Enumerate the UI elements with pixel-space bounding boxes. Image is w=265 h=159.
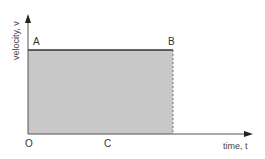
y-axis-arrow-icon bbox=[25, 14, 31, 23]
point-label-o: O bbox=[25, 138, 33, 149]
point-label-c: C bbox=[104, 138, 111, 149]
y-axis-label: velocity, v bbox=[11, 21, 21, 60]
velocity-time-diagram: velocity, v time, t A B O C bbox=[0, 0, 265, 159]
point-label-b: B bbox=[168, 36, 175, 47]
diagram-canvas: velocity, v time, t A B O C bbox=[0, 0, 265, 159]
x-axis-arrow-icon bbox=[244, 131, 253, 137]
shaded-area bbox=[28, 50, 173, 134]
x-axis-label: time, t bbox=[223, 141, 248, 151]
point-label-a: A bbox=[33, 36, 40, 47]
